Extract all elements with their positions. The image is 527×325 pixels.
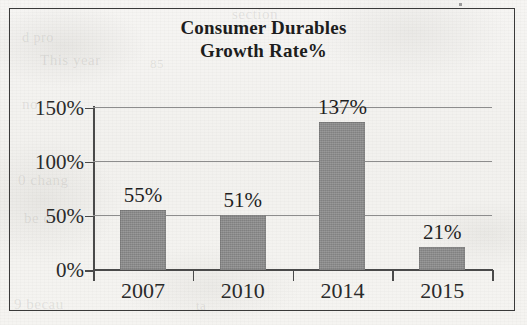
x-axis-label-2015: 2015: [392, 278, 492, 304]
bar-2015: [419, 247, 465, 270]
bar-value-label-2015: 21%: [397, 220, 487, 245]
chart-screenshot: sectiond proThis year85no100 changbe of9…: [0, 0, 527, 325]
x-tick: [492, 270, 494, 281]
bar-2007: [120, 210, 166, 270]
x-axis-label-2007: 2007: [93, 278, 193, 304]
bar-2010: [220, 215, 266, 270]
bar-value-label-2010: 51%: [198, 188, 288, 213]
x-tick: [392, 270, 394, 281]
gridline-150%: [93, 107, 492, 108]
x-tick: [193, 270, 195, 281]
x-tick: [93, 270, 95, 281]
gridline-100%: [93, 161, 492, 162]
bar-value-label-2014: 137%: [297, 95, 387, 120]
bar-2014: [319, 122, 365, 270]
scan-speck: [459, 3, 462, 6]
y-axis-labels: 0%50%100%150%: [0, 0, 84, 325]
x-axis-label-2014: 2014: [292, 278, 392, 304]
x-tick: [293, 270, 295, 281]
y-axis-label: 0%: [2, 258, 84, 283]
y-axis-label: 100%: [2, 149, 84, 174]
bar-value-label-2007: 55%: [98, 183, 188, 208]
y-axis-label: 50%: [2, 203, 84, 228]
y-axis-label: 150%: [2, 95, 84, 120]
x-axis-label-2010: 2010: [193, 278, 293, 304]
